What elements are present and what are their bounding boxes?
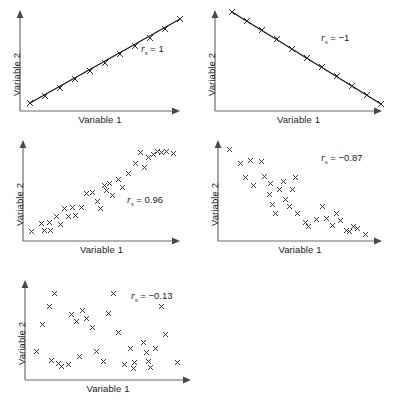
axes-rs-0-96 [20, 140, 180, 244]
plot-area-rs-1 [0, 4, 195, 130]
y-axis-label: Variable 2 [11, 53, 22, 96]
correlation-annotation: rs = 1 [141, 43, 164, 57]
r-value: 0.96 [144, 194, 163, 205]
data-markers [229, 9, 384, 107]
r-value: −1 [338, 32, 349, 43]
y-axis-label: Variable 2 [209, 183, 220, 226]
panel-rs-minus-0-87: Variable 1 Variable 2 rs = −0.87 [195, 134, 397, 260]
panel-rs-0-96: Variable 1 Variable 2 rs = 0.96 [0, 134, 195, 260]
x-axis-label: Variable 1 [218, 244, 382, 255]
x-axis-label: Variable 1 [25, 383, 191, 394]
panel-rs-minus-1: Variable 1 Variable 2 rs = −1 [195, 4, 397, 130]
axes-rs-1 [17, 10, 180, 114]
r-value: −0.13 [148, 290, 172, 301]
x-axis-label: Variable 1 [215, 114, 382, 125]
y-axis-label: Variable 2 [16, 322, 27, 365]
correlation-annotation: rs = −0.13 [131, 290, 173, 304]
r-value: 1 [158, 43, 163, 54]
y-axis-label: Variable 2 [14, 183, 25, 226]
correlation-annotation: rs = −0.87 [321, 152, 363, 166]
plot-area-rs-minus-0-87 [195, 134, 397, 260]
spearman-correlation-figure: Variable 1 Variable 2 rs = 1 [0, 0, 397, 400]
y-axis-label: Variable 2 [206, 53, 217, 96]
plot-area-rs-minus-0-13 [0, 270, 210, 400]
correlation-annotation: rs = 0.96 [127, 194, 163, 208]
x-axis-label: Variable 1 [23, 244, 180, 255]
plot-area-rs-minus-1 [195, 4, 397, 130]
r-value: −0.87 [338, 152, 362, 163]
series-line-rs-1 [27, 16, 183, 106]
series-line-rs-minus-1 [229, 9, 384, 107]
scatter-markers-rs-0-96 [29, 149, 176, 234]
x-axis-label: Variable 1 [20, 114, 180, 125]
plot-area-rs-0-96 [0, 134, 195, 260]
panel-rs-1: Variable 1 Variable 2 rs = 1 [0, 4, 195, 130]
axes-rs-minus-1 [212, 10, 382, 114]
correlation-annotation: rs = −1 [321, 32, 349, 46]
panel-rs-minus-0-13: Variable 1 Variable 2 rs = −0.13 [0, 270, 210, 400]
